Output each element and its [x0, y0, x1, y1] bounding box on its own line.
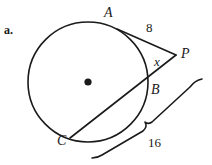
unknown-length-label: x	[154, 55, 160, 68]
tangent-length-label: 8	[146, 21, 153, 34]
figure-canvas	[0, 0, 212, 165]
center-point-dot	[84, 78, 91, 85]
item-letter-label: a.	[4, 24, 13, 36]
point-label-b: B	[151, 83, 160, 97]
point-label-p: P	[181, 47, 190, 61]
secant-total-length-label: 16	[148, 136, 161, 149]
point-label-c: C	[57, 134, 66, 148]
geometry-figure: a. A 8 P x B C 16	[0, 0, 212, 165]
point-label-a: A	[104, 6, 113, 20]
secant-segment-PC	[70, 55, 176, 138]
